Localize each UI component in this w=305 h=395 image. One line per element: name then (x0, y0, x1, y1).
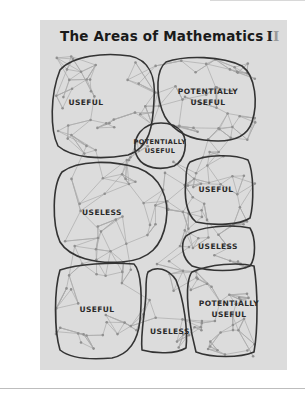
region-label-line: POTENTIALLY (199, 299, 259, 310)
region-label-line: USEFUL (199, 310, 259, 321)
region-label-right-lower: USELESS (198, 242, 238, 253)
region-label-center-small: POTENTIALLYUSEFUL (134, 138, 187, 157)
region-label-middle-right: USEFUL (198, 185, 233, 196)
region-label-line: USEFUL (178, 98, 238, 109)
region-label-line: USEFUL (79, 305, 114, 316)
region-label-line: POTENTIALLY (178, 87, 238, 98)
region-label-line: USEFUL (198, 185, 233, 196)
region-label-line: USELESS (198, 242, 238, 253)
region-label-top-right: POTENTIALLYUSEFUL (178, 87, 238, 109)
bottom-divider (0, 388, 305, 389)
region-label-top-left: USEFUL (68, 98, 103, 109)
region-label-line: POTENTIALLY (134, 138, 187, 147)
region-label-line: USEFUL (134, 147, 187, 156)
region-label-middle-left: USELESS (82, 208, 122, 219)
region-label-bottom-left: USEFUL (79, 305, 114, 316)
region-label-line: USELESS (82, 208, 122, 219)
region-label-bottom-right: POTENTIALLYUSEFUL (199, 299, 259, 321)
region-label-line: USEFUL (68, 98, 103, 109)
region-label-line: USELESS (150, 327, 190, 338)
region-label-bottom-center: USELESS (150, 327, 190, 338)
